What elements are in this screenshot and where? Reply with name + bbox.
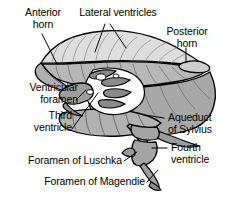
label-foramen-of-luschka: Foramen of Luschka — [2, 155, 122, 167]
label-fourth-ventricle: Fourth ventricle — [171, 142, 229, 165]
label-lateral-ventricles: Lateral ventricles — [68, 7, 168, 19]
ventricular-system-figure: Anterior horn Lateral ventricles Posteri… — [0, 0, 229, 199]
label-third-ventricle: Third ventricle — [0, 110, 72, 133]
label-aqueduct-of-sylvius: Aqueduct of Sylvius — [168, 112, 229, 135]
label-foramen-of-magendie: Foramen of Magendie — [10, 176, 145, 188]
label-ventricular-foramen: Ventricular foramen — [0, 82, 78, 105]
posterior-horn-region — [179, 61, 210, 73]
label-posterior-horn: Posterior horn — [152, 26, 222, 49]
